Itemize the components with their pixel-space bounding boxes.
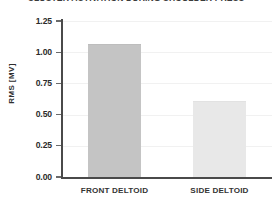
y-axis-tick-label: 1.25 [18, 16, 52, 26]
y-axis-tick-mark [56, 176, 61, 177]
bar[interactable] [88, 44, 141, 177]
y-axis-line [61, 19, 63, 178]
y-axis-tick-mark [56, 145, 61, 146]
x-axis-line [61, 177, 272, 179]
bar[interactable] [193, 101, 246, 177]
y-axis-tick-mark [56, 52, 61, 53]
y-axis-tick-mark [56, 20, 61, 21]
y-axis-tick-label: 0.25 [18, 140, 52, 150]
y-axis-tick-label: 0.50 [18, 109, 52, 119]
gridline [62, 21, 272, 22]
bar-chart: CLUSTER ACTIVATION DURING SHOULDER PRESS… [0, 0, 272, 216]
y-axis-tick-label: 1.00 [18, 47, 52, 57]
y-axis-tick-label: 0.75 [18, 78, 52, 88]
y-axis-tick-mark [56, 114, 61, 115]
plot-area [62, 21, 272, 177]
y-axis-tick-label: 0.00 [18, 172, 52, 182]
y-axis-title: RMS [MV] [7, 44, 16, 124]
x-axis-tick-label: FRONT DELTOID [62, 186, 167, 195]
y-axis-tick-labels: 0.000.250.500.751.001.25 [16, 0, 52, 216]
x-axis-tick-label: SIDE DELTOID [167, 186, 272, 195]
y-axis-tick-mark [56, 83, 61, 84]
